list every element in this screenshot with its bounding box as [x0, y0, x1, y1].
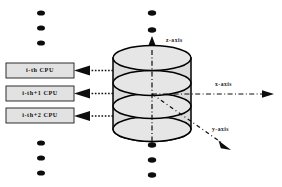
x-axis-label: x-axis [215, 81, 232, 87]
dot [37, 170, 45, 175]
dot [148, 27, 156, 32]
z-axis-label: z-axis [166, 37, 183, 43]
cpu-box-2[interactable]: i-th+2 CPU [6, 108, 74, 123]
dot [148, 142, 156, 147]
cpu-box-label: i-th+1 CPU [22, 89, 58, 96]
dot [148, 172, 156, 177]
diagram-canvas: z-axis x-axis y-axis i-th CPU i-th+1 CPU [0, 0, 282, 187]
dot [37, 155, 45, 160]
dot [37, 40, 45, 45]
dot [148, 157, 156, 162]
dot [37, 10, 45, 15]
cpu-box-label: i-th CPU [26, 66, 54, 73]
dot [37, 25, 45, 30]
cpu-box-label: i-th+2 CPU [22, 111, 58, 118]
dot [37, 140, 45, 145]
cpu-box-0[interactable]: i-th CPU [6, 63, 74, 78]
dot [148, 10, 156, 15]
cpu-box-1[interactable]: i-th+1 CPU [6, 86, 74, 101]
y-axis-label: y-axis [212, 126, 229, 132]
